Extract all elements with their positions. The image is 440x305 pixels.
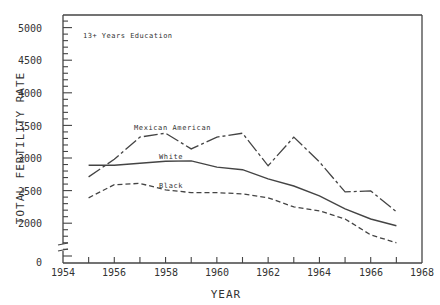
series-label-white: White [159,153,183,161]
x-axis-title: YEAR [211,288,242,301]
x-tick-1966: 1966 [359,267,383,278]
series-line-white [89,161,397,226]
x-tick-1964: 1964 [307,267,331,278]
x-tick-1968: 1968 [410,267,434,278]
series-line-mexican-american [89,133,397,212]
education-annotation: 13+ Years Education [83,32,173,40]
x-tick-1954: 1954 [51,267,75,278]
y-tick-4500: 4500 [18,55,42,66]
x-axis-ticks [89,257,397,263]
x-tick-1960: 1960 [205,267,229,278]
series-lines [89,133,397,243]
y-tick-5000: 5000 [18,23,42,34]
plot-frame [63,15,422,263]
y-axis-title: TOTAL FERTILITY RATE [14,72,27,224]
fertility-line-chart: 5000 4500 4000 3500 3000 2500 2000 0 195… [0,0,440,305]
series-label-black: Black [159,182,183,190]
x-axis-tick-labels: 1954 1956 1958 1960 1962 1964 1966 1968 [51,267,434,278]
y-axis-ticks [63,21,72,256]
x-tick-1956: 1956 [102,267,126,278]
x-tick-1958: 1958 [154,267,178,278]
series-label-mexican-american: Mexican American [134,124,211,132]
x-tick-1962: 1962 [256,267,280,278]
y-tick-0: 0 [36,257,42,268]
